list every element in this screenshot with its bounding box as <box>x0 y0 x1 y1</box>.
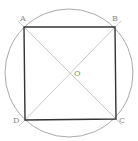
label-b: B <box>112 14 118 23</box>
geometry-diagram: A B C D O <box>0 0 138 141</box>
label-a: A <box>19 14 26 23</box>
label-o-center: O <box>74 69 81 78</box>
label-c: C <box>119 116 125 125</box>
label-d: D <box>13 116 19 125</box>
